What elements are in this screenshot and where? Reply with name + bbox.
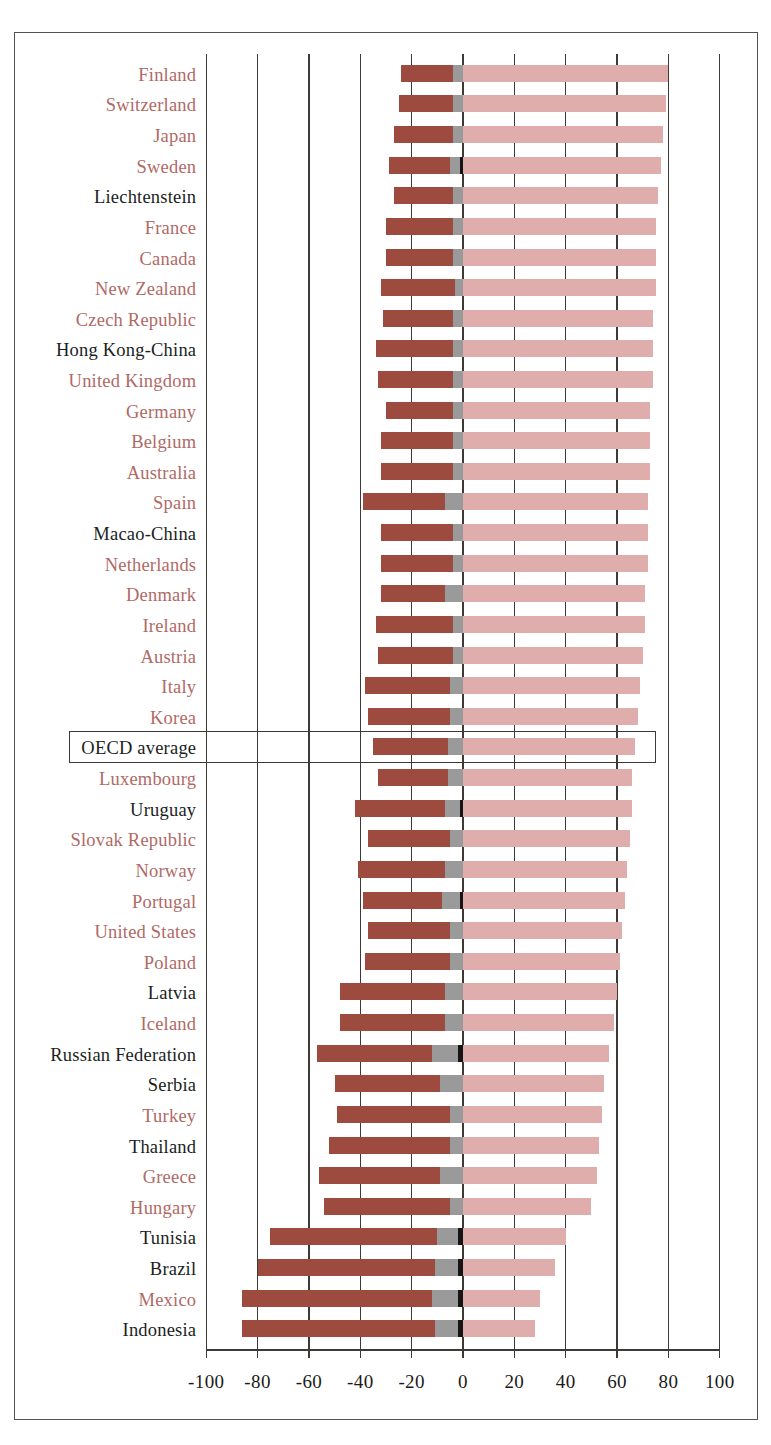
row-label-oecd-average: OECD average: [81, 739, 196, 758]
row-label: Uruguay: [130, 801, 196, 820]
bar-segment-neg-mid: [450, 677, 463, 694]
bar-segment-neg-major: [365, 677, 450, 694]
bar-segment-pos: [463, 463, 650, 480]
row-label: Hong Kong-China: [56, 341, 196, 360]
bar-segment-neg-mid: [440, 1167, 463, 1184]
bar-segment-neg-major: [381, 463, 453, 480]
bar-segment-neg-mid: [448, 769, 463, 786]
bar-segment-neg-major: [258, 1259, 435, 1276]
row-label: Slovak Republic: [70, 831, 196, 850]
bar-segment-pos: [463, 218, 656, 235]
bar-segment-neg-mid: [445, 1014, 463, 1031]
bar-segment-neg-major: [386, 402, 453, 419]
row-label: Belgium: [131, 433, 196, 452]
bar-segment-neg-mid: [437, 1228, 458, 1245]
bar-segment-neg-major: [378, 769, 447, 786]
bar-segment-pos: [463, 1290, 540, 1307]
bar-segment-neg-mid: [432, 1290, 458, 1307]
bar-segment-pos: [463, 187, 658, 204]
row-label: Brazil: [150, 1260, 196, 1279]
x-tick--60: [308, 1349, 309, 1358]
bar-segment-neg-major: [386, 218, 453, 235]
bar-segment-neg-major: [394, 126, 453, 143]
row-label: Australia: [127, 464, 197, 483]
bar-segment-pos: [463, 126, 663, 143]
bar-segment-pos: [463, 279, 656, 296]
gridline-80: [668, 54, 669, 1349]
bar-segment-neg-mid: [453, 402, 463, 419]
bar-segment-pos: [463, 524, 648, 541]
bar-segment-neg-mid: [445, 493, 463, 510]
row-label: France: [145, 219, 197, 238]
row-label: Japan: [153, 127, 196, 146]
bar-segment-neg-mid: [453, 463, 463, 480]
bar-segment-pos: [463, 922, 622, 939]
bar-segment-neg-mid: [453, 249, 463, 266]
row-label: Liechtenstein: [94, 188, 196, 207]
bar-segment-neg-mid: [453, 616, 463, 633]
x-tick-label-100: 100: [680, 1371, 760, 1393]
gridline--40: [360, 54, 361, 1349]
bar-segment-neg-mid: [445, 585, 463, 602]
row-label: Luxembourg: [99, 770, 196, 789]
row-label: Greece: [143, 1168, 197, 1187]
bar-segment-pos: [463, 1228, 566, 1245]
bar-segment-pos: [463, 892, 625, 909]
bar-segment-neg-major: [324, 1198, 450, 1215]
bar-segment-neg-mid: [435, 1259, 458, 1276]
row-label: Macao-China: [93, 525, 196, 544]
row-label: Norway: [135, 862, 196, 881]
bar-segment-neg-mid: [453, 218, 463, 235]
bar-segment-neg-mid: [453, 65, 463, 82]
x-tick-80: [668, 1349, 669, 1358]
bar-segment-neg-major: [381, 524, 453, 541]
bar-segment-neg-mid: [445, 861, 463, 878]
row-label: Ireland: [142, 617, 196, 636]
bar-segment-neg-major: [394, 187, 453, 204]
bar-segment-pos: [463, 769, 632, 786]
bar-segment-pos: [463, 1167, 597, 1184]
bar-segment-pos: [463, 1075, 604, 1092]
bar-segment-neg-mid: [435, 1320, 458, 1337]
bar-segment-neg-mid: [453, 432, 463, 449]
chart-frame: -100-80-60-40-20020406080100FinlandSwitz…: [14, 32, 758, 1420]
row-label: Hungary: [130, 1199, 196, 1218]
bar-segment-pos: [463, 708, 638, 725]
row-label: Latvia: [148, 984, 196, 1003]
bar-segment-pos: [463, 1198, 591, 1215]
bar-segment-neg-mid: [453, 647, 463, 664]
bar-segment-pos: [463, 1045, 609, 1062]
bar-segment-neg-mid: [445, 800, 460, 817]
row-label: Indonesia: [123, 1321, 197, 1340]
bar-segment-neg-major: [317, 1045, 433, 1062]
row-label: Mexico: [139, 1291, 197, 1310]
bar-segment-neg-major: [378, 371, 452, 388]
bar-segment-neg-major: [381, 432, 453, 449]
bar-segment-neg-major: [383, 310, 452, 327]
x-tick--40: [360, 1349, 361, 1358]
bar-segment-neg-mid: [440, 1075, 463, 1092]
bar-segment-pos: [463, 585, 645, 602]
bar-segment-neg-mid: [450, 1106, 463, 1123]
bar-segment-neg-major: [399, 95, 453, 112]
row-label: Finland: [138, 66, 196, 85]
bar-segment-neg-mid: [450, 953, 463, 970]
row-label: Korea: [150, 709, 196, 728]
x-tick--100: [206, 1349, 207, 1358]
bar-segment-neg-mid: [450, 157, 460, 174]
bar-segment-neg-major: [270, 1228, 437, 1245]
row-label: Spain: [153, 494, 196, 513]
bar-segment-pos: [463, 95, 666, 112]
row-label: Portugal: [132, 893, 196, 912]
gridline-100: [719, 54, 720, 1349]
x-tick--20: [411, 1349, 412, 1358]
bar-segment-neg-mid: [450, 830, 463, 847]
bar-segment-pos: [463, 249, 656, 266]
gridline--80: [257, 54, 258, 1349]
bar-segment-pos: [463, 402, 650, 419]
bar-segment-neg-major: [381, 585, 445, 602]
bar-segment-neg-major: [381, 279, 455, 296]
bar-segment-pos: [463, 1014, 614, 1031]
bar-segment-pos: [463, 493, 648, 510]
bar-segment-neg-mid: [450, 1137, 463, 1154]
